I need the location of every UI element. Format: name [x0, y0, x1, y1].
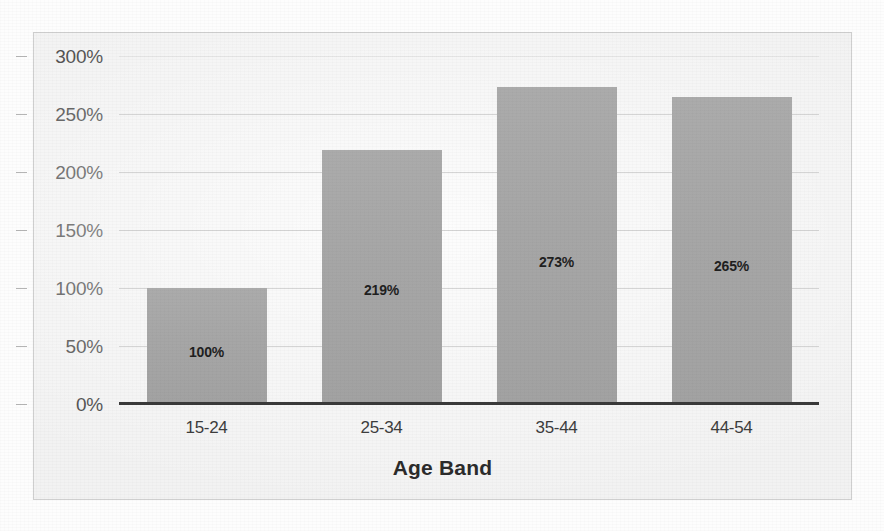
bar-25-34: 219% — [322, 150, 442, 404]
bar-value-label-35-44: 273% — [497, 254, 617, 270]
category-axis-line — [119, 402, 819, 405]
y-tick-dash-0 — [16, 404, 27, 405]
x-tick-label-25-34: 25-34 — [302, 418, 462, 438]
x-tick-label-35-44: 35-44 — [477, 418, 637, 438]
y-tick-label-50: 50% — [29, 337, 103, 356]
y-tick-label-200: 200% — [29, 163, 103, 182]
y-tick-dash-200 — [16, 172, 27, 173]
bar-44-54: 265% — [672, 97, 792, 404]
y-tick-dash-50 — [16, 346, 27, 347]
bar-35-44: 273% — [497, 87, 617, 404]
y-tick-label-100: 100% — [29, 279, 103, 298]
bar-15-24: 100% — [147, 288, 267, 404]
y-tick-label-300: 300% — [29, 47, 103, 66]
y-tick-dash-250 — [16, 114, 27, 115]
x-tick-label-44-54: 44-54 — [652, 418, 812, 438]
bar-value-label-25-34: 219% — [322, 282, 442, 298]
plot-area: 100%219%273%265% — [119, 56, 819, 404]
scanned-chart-page: 300%250%200%150%100%50%0% 100%219%273%26… — [0, 0, 884, 531]
bar-value-label-15-24: 100% — [147, 344, 267, 360]
y-tick-label-250: 250% — [29, 105, 103, 124]
y-tick-dash-100 — [16, 288, 27, 289]
bar-value-label-44-54: 265% — [672, 258, 792, 274]
y-tick-dash-300 — [16, 56, 27, 57]
y-tick-label-150: 150% — [29, 221, 103, 240]
chart-frame: 300%250%200%150%100%50%0% 100%219%273%26… — [33, 32, 852, 500]
y-tick-label-0: 0% — [29, 395, 103, 414]
x-axis-title: Age Band — [34, 456, 851, 480]
gridline-300 — [119, 56, 819, 57]
y-tick-dash-150 — [16, 230, 27, 231]
x-tick-label-15-24: 15-24 — [127, 418, 287, 438]
